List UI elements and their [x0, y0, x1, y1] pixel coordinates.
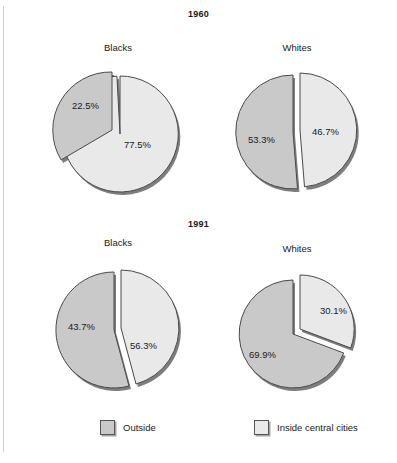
legend-swatch-outside-icon	[100, 420, 115, 435]
legend-label-outside: Outside	[123, 422, 156, 433]
panel-title-blacks-1991: Blacks	[58, 237, 178, 248]
pie-slice-outside-whites-1960	[236, 75, 298, 189]
year-label-1960: 1960	[0, 9, 397, 19]
year-label-1991: 1991	[0, 219, 397, 229]
pie-blacks-1960	[38, 56, 198, 216]
legend-item-inside: Inside central cities	[254, 420, 358, 435]
panel-title-blacks-1960: Blacks	[58, 42, 178, 53]
pct-inside-blacks-1991: 56.3%	[130, 340, 157, 351]
pie-whites-1960	[217, 56, 377, 218]
pct-inside-whites-1991: 30.1%	[320, 305, 347, 316]
pct-inside-blacks-1960: 77.5%	[124, 139, 151, 150]
pct-outside-whites-1960: 53.3%	[248, 134, 275, 145]
pie-slice-inside-blacks-1991	[121, 270, 179, 384]
pie-whites-1991	[221, 256, 381, 416]
pie-chart-figure: 1960 1991 Blacks 22.5% 77.5% Whites 53.3…	[0, 0, 397, 463]
panel-title-whites-1960: Whites	[237, 42, 357, 53]
pct-outside-whites-1991: 69.9%	[249, 349, 276, 360]
panel-title-whites-1991: Whites	[237, 243, 357, 254]
legend-label-inside: Inside central cities	[277, 422, 358, 433]
legend-item-outside: Outside	[100, 420, 156, 435]
legend-swatch-inside-icon	[254, 420, 269, 435]
left-edge-rule	[3, 6, 4, 452]
pie-blacks-1991	[36, 250, 201, 418]
pct-outside-blacks-1960: 22.5%	[72, 100, 99, 111]
chart-legend: Outside Inside central cities	[0, 420, 397, 442]
pct-inside-whites-1960: 46.7%	[312, 126, 339, 137]
pct-outside-blacks-1991: 43.7%	[68, 321, 95, 332]
